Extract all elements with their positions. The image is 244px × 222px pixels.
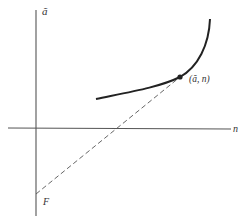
diagram-canvas: ã n (ã, n) F bbox=[0, 0, 244, 222]
y-axis-label: ã bbox=[42, 5, 48, 17]
tangency-point bbox=[177, 74, 182, 79]
intercept-label-F: F bbox=[42, 196, 50, 207]
curve bbox=[96, 19, 210, 99]
x-axis-label: n bbox=[233, 123, 238, 134]
point-label: (ã, n) bbox=[189, 74, 210, 85]
dashed-tangent-line bbox=[36, 77, 180, 194]
x-axis bbox=[8, 128, 231, 129]
